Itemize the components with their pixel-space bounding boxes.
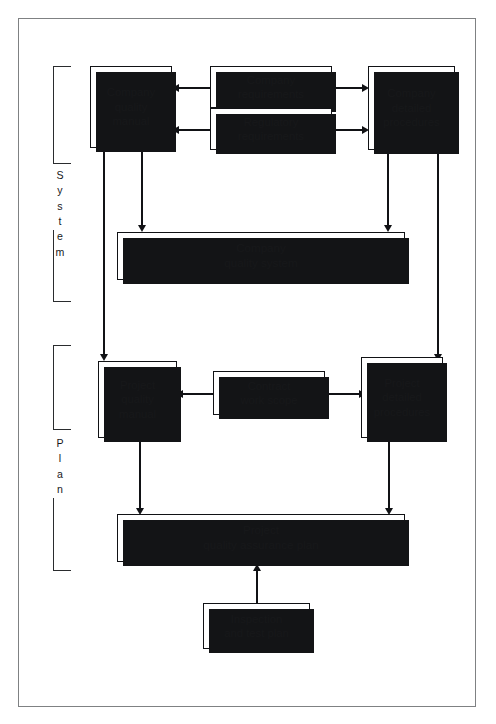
node-label-inspection-test-plan: Inspection and test plan (221, 612, 292, 641)
system-letter-4: e (52, 229, 68, 244)
arrowhead-cqm-to-pqm (100, 354, 108, 361)
system-letter-5: m (52, 245, 68, 260)
node-project-detailed-procedures[interactable]: Project detailed procedures (361, 357, 443, 438)
system-letter-3: t (52, 214, 68, 229)
edge-cws-to-pdp (325, 393, 361, 395)
node-label-company-quality-system: Company quality system (221, 241, 300, 271)
node-label-project-qa-plan: Project quality assurance plan (200, 523, 321, 553)
node-project-qa-plan[interactable]: Project quality assurance plan (117, 514, 405, 562)
arrowhead-cqm-to-cqs (138, 225, 146, 232)
node-label-project-detailed-procedures: Project detailed procedures (371, 376, 434, 419)
edge-cdp-to-cqs (387, 150, 389, 226)
node-label-project-quality-manual: Project quality manual (116, 378, 159, 421)
system-letter-0: S (52, 168, 68, 183)
bracket-system (53, 66, 71, 164)
bracket-label-system: S y s t e m (52, 168, 68, 260)
node-contract-work-scope[interactable]: Contract work scope (213, 371, 325, 415)
edge-compreq-to-cqm (178, 87, 210, 89)
bracket-plan-lower (53, 498, 71, 571)
edge-compreq-to-cdp (332, 87, 364, 89)
node-label-company-quality-manual: Company quality manual (104, 85, 158, 128)
node-company-requirements[interactable]: Company requirements (210, 66, 332, 108)
node-inspection-test-plan[interactable]: Inspection and test plan (203, 603, 310, 649)
node-project-quality-manual[interactable]: Project quality manual (98, 361, 177, 438)
plan-letter-0: P (52, 436, 68, 451)
plan-letter-2: a (52, 467, 68, 482)
node-label-company-requirements: Company requirements (235, 73, 307, 102)
edge-pdp-to-pqap (388, 438, 390, 510)
system-letter-2: s (52, 199, 68, 214)
node-company-detailed-procedures[interactable]: Company detailed procedures (368, 66, 455, 150)
system-letter-1: y (52, 183, 68, 198)
edge-pqm-to-pqap (139, 438, 141, 510)
bracket-plan (53, 345, 71, 430)
bracket-label-plan: P l a n (52, 436, 68, 497)
diagram-canvas: S y s t e m P l a n (0, 0, 496, 724)
node-regulatory-requirements[interactable]: Regulatory requirements (210, 108, 332, 150)
plan-letter-3: n (52, 482, 68, 497)
edge-regreq-to-cqm (178, 129, 210, 131)
node-company-quality-system[interactable]: Company quality system (117, 232, 405, 280)
node-label-contract-work-scope: Contract work scope (237, 379, 300, 408)
edge-cdp-to-pdp (437, 150, 439, 357)
node-company-quality-manual[interactable]: Company quality manual (90, 66, 172, 148)
edge-regreq-to-cdp (332, 129, 364, 131)
edge-cws-to-pqm (182, 393, 213, 395)
edge-cqm-to-pqm (103, 148, 105, 357)
plan-letter-1: l (52, 451, 68, 466)
edge-itp-to-pqap (256, 568, 258, 605)
node-label-regulatory-requirements: Regulatory requirements (235, 115, 307, 144)
node-label-company-detailed-procedures: Company detailed procedures (380, 86, 443, 129)
arrowhead-cdp-to-cqs (384, 225, 392, 232)
edge-cqm-to-cqs (141, 148, 143, 226)
